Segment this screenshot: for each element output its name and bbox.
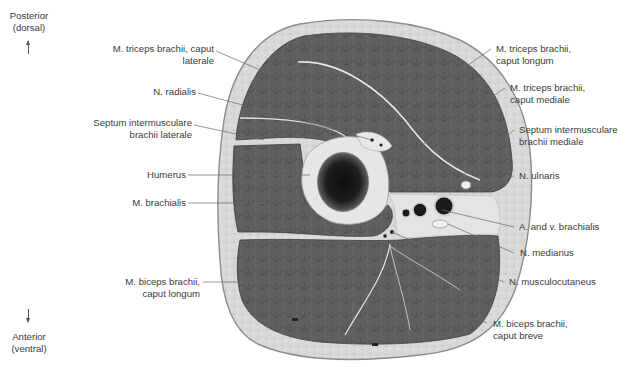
ulnar-nerve (461, 181, 471, 189)
label-septum-medial: Septum intermusculare brachii mediale (519, 124, 618, 148)
label-line: caput mediale (510, 94, 585, 106)
up-arrow-icon (28, 41, 29, 54)
label-line: A. and v. brachialis (519, 221, 599, 233)
label-line: M. triceps brachii, caput (113, 43, 214, 55)
label-brachialis: M. brachialis (132, 197, 186, 209)
label-line: N. medianus (520, 247, 574, 259)
orientation-anterior: Anterior (ventral) (8, 331, 50, 355)
label-line: Humerus (147, 169, 186, 181)
label-line: caput breve (493, 330, 568, 342)
label-line: M. triceps brachii, (496, 43, 571, 55)
label-line: M. biceps brachii, (125, 276, 200, 288)
label-humerus: Humerus (147, 169, 186, 181)
orientation-anterior-line2: (ventral) (11, 343, 46, 354)
label-a-v-brachialis: A. and v. brachialis (519, 221, 599, 233)
label-line: caput longum (125, 288, 200, 300)
down-arrow-icon (28, 309, 29, 322)
label-line: M. brachialis (132, 197, 186, 209)
label-triceps-longum: M. triceps brachii, caput longum (496, 43, 571, 67)
orientation-posterior: Posterior (dorsal) (8, 10, 50, 34)
brachial-artery (413, 203, 427, 217)
label-line: N. ulnaris (519, 170, 560, 182)
label-line: Septum intermusculare (93, 117, 192, 129)
label-n-ulnaris: N. ulnaris (519, 170, 560, 182)
label-line: N. musculocutaneus (509, 276, 596, 288)
label-triceps-mediale: M. triceps brachii, caput mediale (510, 82, 585, 106)
brachial-vein-large (435, 197, 454, 216)
label-line: Septum intermusculare (519, 124, 618, 136)
orientation-anterior-line1: Anterior (12, 331, 46, 342)
label-n-medianus: N. medianus (520, 247, 574, 259)
label-line: M. triceps brachii, (510, 82, 585, 94)
median-nerve (432, 220, 448, 228)
bone-marrow (317, 152, 369, 212)
label-line: brachii laterale (93, 129, 192, 141)
label-line: laterale (113, 55, 214, 67)
label-line: M. biceps brachii, (493, 318, 568, 330)
label-septum-lateral: Septum intermusculare brachii laterale (93, 117, 192, 141)
orientation-posterior-line2: (dorsal) (13, 22, 46, 33)
label-biceps-longum: M. biceps brachii, caput longum (125, 276, 200, 300)
biceps-region (237, 235, 499, 344)
label-n-musculocutaneus: N. musculocutaneus (509, 276, 596, 288)
label-biceps-breve: M. biceps brachii, caput breve (493, 318, 568, 342)
label-line: caput longum (496, 55, 571, 67)
label-n-radialis: N. radialis (153, 86, 196, 98)
label-line: N. radialis (153, 86, 196, 98)
label-line: brachii mediale (519, 136, 618, 148)
orientation-posterior-line1: Posterior (10, 10, 48, 21)
label-triceps-lateral: M. triceps brachii, caput laterale (113, 43, 214, 67)
